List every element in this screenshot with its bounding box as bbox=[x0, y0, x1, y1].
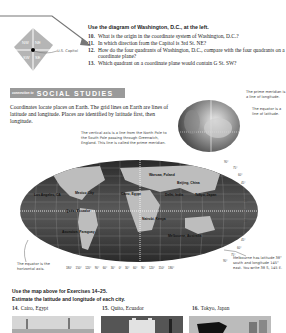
instruction-line-1: Use the map above for Exercises 14–25. bbox=[12, 287, 125, 295]
exercise-number: 10. bbox=[88, 33, 96, 40]
instruction-line-2: Estimate the latitude and longitude of e… bbox=[12, 295, 125, 303]
exercise-text: What is the origin in the coordinate sys… bbox=[98, 33, 286, 40]
callout-vertical-axis: The vertical axis is a line from the Nor… bbox=[81, 131, 171, 145]
exercise-item: 12. How do the four quadrants of Washing… bbox=[88, 47, 286, 60]
exercise-number: 12. bbox=[88, 47, 96, 60]
callout-melbourne: Melbourne has latitude 38° south and lon… bbox=[233, 256, 283, 270]
quito-photo bbox=[101, 316, 183, 333]
exercise-number: 11. bbox=[88, 40, 96, 47]
map-label-quito: Quito, Ecuador bbox=[66, 209, 90, 213]
city-item: 15.Quito, Ecuador bbox=[102, 305, 192, 311]
map-label-asuncion: Asuncion, Paraguay bbox=[62, 230, 95, 234]
svg-text:U.S. Capitol: U.S. Capitol bbox=[57, 49, 78, 53]
textbook-page: NW NE SW SE U.S. Capitol Use the diagram… bbox=[0, 0, 286, 333]
exercise-item: 10. What is the origin in the coordinate… bbox=[88, 33, 286, 40]
exercise-item: 11. In which direction from the Capitol … bbox=[88, 40, 286, 47]
map-label-beijing: Beijing, China bbox=[177, 181, 200, 185]
svg-text:SW: SW bbox=[23, 55, 30, 60]
exercise-number: 13. bbox=[88, 60, 96, 67]
svg-text:NW: NW bbox=[22, 40, 29, 45]
washington-dc-diagram: NW NE SW SE U.S. Capitol bbox=[10, 25, 90, 73]
city-item: 16.Tokyo, Japan bbox=[192, 305, 282, 311]
exercise-heading: Use the diagram of Washington, D.C., at … bbox=[88, 24, 286, 31]
map-label-los-angeles: Los Angeles, CA bbox=[34, 193, 61, 197]
exercise-text: In which direction from the Capitol is 3… bbox=[98, 40, 286, 47]
map-label-cairo: Cairo, Egypt bbox=[121, 192, 141, 196]
city-exercises: 14.Cairo, Egypt 15.Quito, Ecuador 16.Tok… bbox=[12, 305, 282, 311]
map-label-mexico-city: Mexico City bbox=[75, 191, 94, 195]
map-label-warsaw: Warsaw, Poland bbox=[149, 173, 175, 177]
bottom-instructions: Use the map above for Exercises 14–25. E… bbox=[12, 287, 125, 303]
equator-leader-line bbox=[18, 240, 38, 264]
banner-prefix: connection to bbox=[12, 91, 34, 95]
cairo-photo bbox=[12, 316, 94, 333]
map-label-melbourne: Melbourne, Australia bbox=[168, 234, 201, 238]
callout-prime-meridian: The prime meridian is a line of longitud… bbox=[246, 90, 286, 100]
exercise-text: Which quadrant on a coordinate plane wou… bbox=[98, 60, 286, 67]
dc-exercises: Use the diagram of Washington, D.C., at … bbox=[88, 24, 286, 68]
callout-equator-horizontal: The equator is the horizontal axis. bbox=[17, 262, 61, 272]
svg-text:SE: SE bbox=[35, 55, 41, 60]
svg-text:NE: NE bbox=[35, 40, 41, 45]
tokyo-photo bbox=[189, 316, 271, 333]
map-label-delhi: Delhi, India bbox=[165, 193, 183, 197]
social-studies-intro: Coordinates locate places on Earth. The … bbox=[10, 104, 175, 125]
map-label-tokyo: Tokyo, Japan bbox=[195, 193, 216, 197]
exercise-item: 13. Which quadrant on a coordinate plane… bbox=[88, 60, 286, 67]
map-label-nairobi: Nairobi, Kenya bbox=[142, 217, 166, 221]
social-studies-banner: connection to SOCIAL STUDIES bbox=[10, 88, 125, 98]
banner-title: SOCIAL STUDIES bbox=[37, 90, 114, 97]
longitude-ticks: 180°150° 120°90° 60°30° 0°30° 60°90° 120… bbox=[66, 266, 174, 270]
city-item: 14.Cairo, Egypt bbox=[12, 305, 102, 311]
exercise-text: How do the four quadrants of Washington,… bbox=[98, 47, 286, 60]
world-map bbox=[20, 160, 258, 262]
callout-equator-latitude: The equator is a line of latitude. bbox=[252, 107, 282, 117]
globe-image bbox=[178, 100, 240, 152]
